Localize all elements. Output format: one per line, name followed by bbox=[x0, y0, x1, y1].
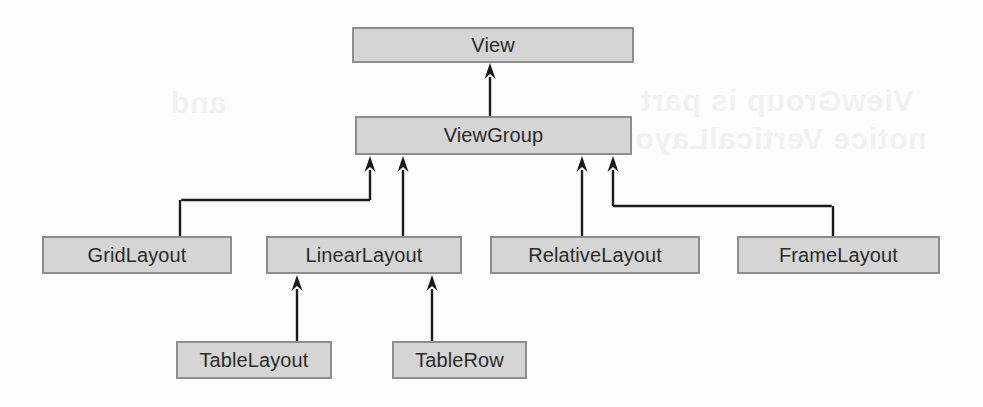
class-node-gridlayout: GridLayout bbox=[42, 236, 232, 274]
arrowhead-gridlayout-to-viewgroup bbox=[365, 156, 376, 172]
class-node-label: TableRow bbox=[415, 350, 504, 370]
class-node-viewgroup: ViewGroup bbox=[355, 116, 632, 155]
class-node-linearlayout: LinearLayout bbox=[266, 236, 462, 274]
arrowhead-tablelayout-to-linearlayout bbox=[292, 275, 303, 291]
class-node-relativelayout: RelativeLayout bbox=[490, 236, 700, 274]
arrowhead-viewgroup-to-view bbox=[485, 63, 496, 79]
class-node-label: RelativeLayout bbox=[528, 245, 662, 265]
class-node-label: TableLayout bbox=[200, 350, 309, 370]
arrowhead-tablerow-to-linearlayout bbox=[427, 275, 438, 291]
arrowhead-framelayout-to-viewgroup bbox=[608, 156, 619, 172]
arrowhead-linearlayout-to-viewgroup bbox=[398, 156, 409, 172]
class-hierarchy-diagram: ViewGroup is partnotice VerticalLayoutan… bbox=[0, 0, 983, 407]
class-node-framelayout: FrameLayout bbox=[737, 236, 940, 274]
class-node-label: GridLayout bbox=[88, 245, 187, 265]
arrowhead-relativelayout-to-viewgroup bbox=[577, 156, 588, 172]
class-node-label: View bbox=[471, 35, 514, 55]
class-node-view: View bbox=[352, 27, 634, 63]
class-node-label: FrameLayout bbox=[779, 245, 898, 265]
class-node-tablelayout: TableLayout bbox=[176, 341, 332, 379]
class-node-label: ViewGroup bbox=[444, 125, 543, 145]
class-node-tablerow: TableRow bbox=[392, 341, 527, 379]
class-node-label: LinearLayout bbox=[306, 245, 423, 265]
